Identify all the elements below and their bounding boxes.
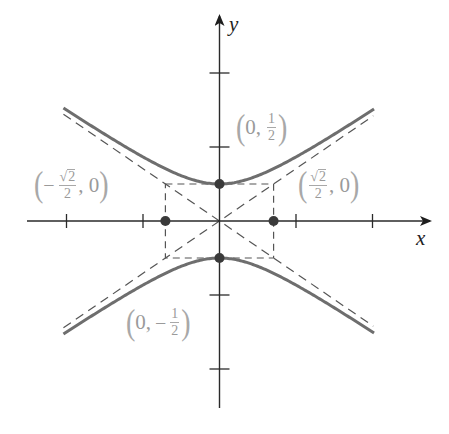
lower-branch [63,258,374,334]
close-paren: ) [99,168,108,203]
denominator: 2 [171,323,178,338]
radicand: 2 [318,169,326,184]
denominator: 2 [315,186,322,201]
plot-canvas [0,0,449,434]
point-marker [269,216,279,226]
minus-sign: − [155,313,166,333]
fraction-one-half: 12 [267,112,276,143]
label-top-vertex: (0, 12) [236,112,287,143]
point-marker [160,216,170,226]
point-marker [215,179,225,189]
minus-sign: − [43,175,54,195]
close-paren: ) [350,168,359,203]
numerator: √2 [309,169,327,186]
point-marker [215,253,225,263]
open-paren: ( [236,110,245,145]
label-right-point: (√22, 0) [298,169,359,201]
radical-sign: √ [60,170,68,184]
denominator: 2 [64,186,71,201]
open-paren: ( [34,168,43,203]
close-paren: ) [278,110,287,145]
radical-sign: √ [310,170,318,184]
y-value: , 0 [329,175,350,196]
fraction-one-half: 12 [170,307,179,338]
radicand: 2 [67,169,75,184]
y-value: , 0 [78,175,99,196]
label-left-point: (−√22, 0) [34,169,109,201]
coordinate-axes [27,16,430,408]
fraction-sqrt2-over-2: √22 [309,169,327,201]
x-value: 0, [245,117,261,138]
x-value: 0, [135,312,151,333]
fraction-sqrt2-over-2: √22 [59,169,77,201]
open-paren: ( [298,168,307,203]
denominator: 2 [268,128,275,143]
open-paren: ( [126,305,135,340]
close-paren: ) [181,305,190,340]
label-bottom-vertex: (0, −12) [126,307,191,338]
numerator: 1 [170,307,179,323]
y-axis-label: y [229,14,238,35]
numerator: √2 [59,169,77,186]
numerator: 1 [267,112,276,128]
hyperbola-figure: y x (0, 12) (0, −12) (−√22, 0) (√22, 0) [0,0,449,434]
x-axis-label: x [416,228,425,249]
